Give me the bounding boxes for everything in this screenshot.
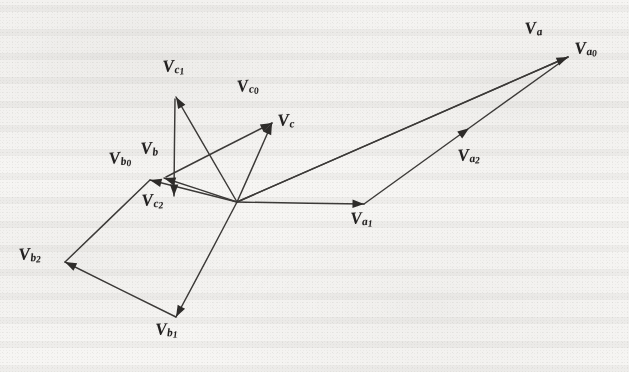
vector-V_b2 xyxy=(65,262,176,317)
arrowhead-V_c2 xyxy=(170,184,178,196)
vector-lines-group xyxy=(65,57,568,317)
figure-canvas: Vc1Vc0VcVbVb0Vc2Vb2Vb1Va1Va2VaVa0 xyxy=(0,0,629,372)
arrowhead-V_b0 xyxy=(150,179,162,187)
arrowhead-V_c1 xyxy=(176,97,185,109)
label-va: Va xyxy=(524,19,543,39)
label-vb1: Vb1 xyxy=(155,320,178,342)
vector-V_b0_leg xyxy=(65,180,150,262)
vector-V_b1 xyxy=(176,202,237,317)
arrowhead-V_b2 xyxy=(65,262,77,271)
vector-V_c xyxy=(166,123,272,177)
label-vb: Vb xyxy=(140,139,158,159)
arrowhead-V_b1 xyxy=(176,305,185,317)
label-vb2: Vb2 xyxy=(18,244,41,266)
vector-V_b0 xyxy=(150,180,237,202)
label-va0: Va0 xyxy=(574,38,597,60)
label-vc1: Vc1 xyxy=(162,57,185,79)
vector-arrowheads-group xyxy=(65,57,568,317)
arrowhead-V_a2 xyxy=(457,128,469,138)
vector-V_c0 xyxy=(237,123,272,202)
vector-V_a1 xyxy=(237,202,364,204)
label-va1: Va1 xyxy=(350,209,373,231)
vector-diagram-svg xyxy=(0,0,629,372)
label-vc2: Vc2 xyxy=(141,191,164,213)
vector-V_c1 xyxy=(176,97,237,202)
label-va2: Va2 xyxy=(457,145,480,167)
label-vc0: Vc0 xyxy=(236,76,259,99)
arrowhead-V_a1 xyxy=(352,200,364,208)
label-vc: Vc xyxy=(277,111,295,131)
label-vb0: Vb0 xyxy=(108,148,132,171)
